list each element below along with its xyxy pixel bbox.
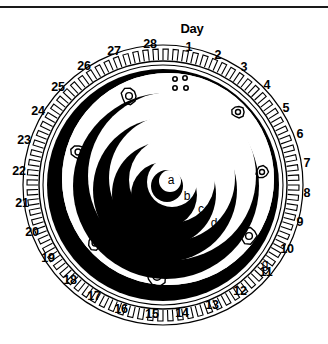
day-number-28: 28 [143,38,157,51]
figure-canvas: Day 123456789101112131415161718192021222… [0,0,328,344]
day-number-27: 27 [107,45,121,58]
rim-tooth [153,49,159,60]
rim-tooth [261,100,273,111]
day-number-6: 6 [297,128,304,141]
ring-label-c: c [198,203,204,215]
rim-tooth [27,189,38,195]
rim-tooth [271,117,283,127]
rim-tooth [282,145,294,153]
rim-tooth [29,208,41,215]
ring-label-f: f [250,245,253,257]
rim-tooth [286,204,298,211]
day-number-7: 7 [304,157,311,170]
rim-tooth [221,293,231,305]
rim-tooth [95,65,105,77]
day-number-19: 19 [41,252,55,265]
ring-label-a: a [168,174,175,186]
rim-tooth [40,121,52,130]
rim-tooth [123,54,131,66]
day-number-23: 23 [17,134,31,147]
day-number-25: 25 [51,81,65,94]
rim-tooth [51,104,63,115]
rim-tooth [226,67,236,79]
rim-tooth [288,185,299,190]
ring-label-g: g [262,258,269,270]
day-number-8: 8 [304,187,311,200]
rim-tooth [172,49,178,60]
ring-label-d: d [211,217,218,229]
rim-tooth [233,73,244,85]
day-number-13: 13 [205,299,219,312]
day-number-26: 26 [77,60,91,73]
rim-tooth [133,51,140,63]
rim-tooth [248,85,259,96]
rim-tooth [288,175,299,181]
rim-tooth [241,79,252,91]
rim-tooth [217,62,226,74]
rim-tooth [266,108,278,118]
rim-tooth [255,93,267,104]
rim-tooth [284,213,296,221]
day-number-15: 15 [145,308,159,321]
rim-tooth [287,194,298,200]
rim-tooth [28,199,40,205]
rim-tooth [285,155,297,162]
rim-tooth [138,308,145,320]
rim-tooth [71,82,82,94]
rim-tooth [167,310,173,321]
day-number-9: 9 [297,216,304,229]
day-axis-title: Day [180,22,203,35]
day-number-12: 12 [233,285,247,298]
rim-tooth [200,55,208,67]
rim-tooth [195,304,203,316]
rim-tooth [278,231,290,240]
lunar-phase-dial-graphic [0,0,328,344]
rim-tooth [287,165,299,171]
rim-tooth [269,248,281,258]
rim-tooth [191,52,199,64]
rim-tooth [279,135,291,144]
rim-tooth [45,112,57,122]
day-number-17: 17 [87,290,101,303]
day-number-20: 20 [25,226,39,239]
day-number-22: 22 [12,165,26,178]
rim-tooth [143,50,149,62]
rim-tooth [33,140,45,148]
rim-tooth [30,150,42,158]
rim-tooth [128,306,136,318]
rim-tooth [38,235,50,244]
ring-label-b: b [184,190,191,202]
rim-tooth [276,126,288,135]
rim-tooth [281,222,293,230]
day-number-4: 4 [264,79,271,92]
day-number-21: 21 [15,197,29,210]
rim-tooth [113,57,122,69]
day-number-18: 18 [63,274,77,287]
day-number-5: 5 [283,102,290,115]
rim-tooth [27,180,38,185]
rim-tooth [104,60,113,72]
rim-tooth [57,96,69,107]
day-number-3: 3 [241,61,248,74]
rim-tooth [27,170,38,176]
day-number-14: 14 [175,307,189,320]
day-number-2: 2 [215,49,222,62]
day-number-10: 10 [280,243,294,256]
day-number-1: 1 [186,41,193,54]
day-number-16: 16 [114,303,128,316]
rim-tooth [163,49,168,60]
rim-tooth [78,75,89,87]
day-number-24: 24 [31,105,45,118]
ring-label-e: e [232,232,239,244]
rim-tooth [29,160,41,167]
rim-tooth [36,130,48,139]
